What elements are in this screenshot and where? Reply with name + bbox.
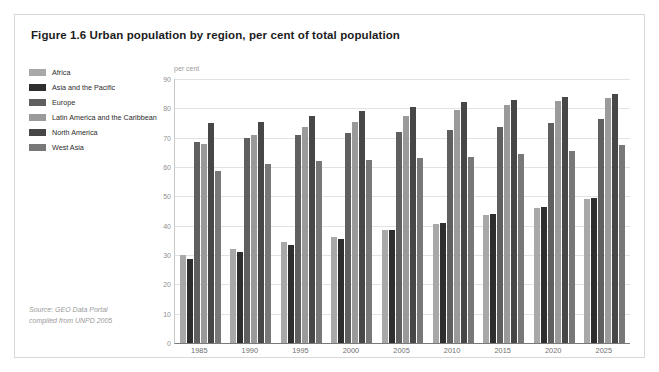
y-axis-tick-label: 30 <box>163 252 171 259</box>
y-axis-title: per cent <box>174 65 199 72</box>
y-axis-tick-label: 20 <box>163 281 171 288</box>
bar[interactable] <box>180 255 186 343</box>
bar[interactable] <box>598 119 604 343</box>
bar[interactable] <box>265 164 271 343</box>
x-axis-tick-label: 2015 <box>477 346 528 355</box>
legend-item[interactable]: West Asia <box>29 140 149 155</box>
legend-swatch-icon <box>29 129 46 136</box>
legend-item-label: West Asia <box>52 144 84 151</box>
bar[interactable] <box>382 230 388 343</box>
bar[interactable] <box>403 116 409 343</box>
y-axis-tick-label: 0 <box>167 340 171 347</box>
bar[interactable] <box>366 160 372 343</box>
bar[interactable] <box>389 230 395 343</box>
bar-group <box>331 79 372 343</box>
bar[interactable] <box>352 122 358 343</box>
legend-item[interactable]: North America <box>29 125 149 140</box>
source-line-2: compiled from UNPD 2005 <box>29 316 112 327</box>
bar[interactable] <box>237 252 243 343</box>
bar[interactable] <box>584 199 590 343</box>
bar[interactable] <box>316 161 322 343</box>
bar-group <box>230 79 271 343</box>
y-axis-tick-label: 50 <box>163 193 171 200</box>
bar[interactable] <box>440 223 446 343</box>
bar[interactable] <box>201 144 207 343</box>
bar-group <box>584 79 625 343</box>
bar[interactable] <box>258 122 264 343</box>
x-axis-tick-label: 1985 <box>174 346 225 355</box>
bar[interactable] <box>511 100 517 343</box>
bar[interactable] <box>295 135 301 343</box>
legend-swatch-icon <box>29 84 46 91</box>
legend-item[interactable]: Latin America and the Caribbean <box>29 110 149 125</box>
bar[interactable] <box>562 97 568 343</box>
legend-item[interactable]: Europe <box>29 95 149 110</box>
chart-plot-wrapper: per cent 0102030405060708090 19851990199… <box>153 65 633 355</box>
bar[interactable] <box>251 135 257 343</box>
bar[interactable] <box>345 133 351 343</box>
bar[interactable] <box>215 171 221 343</box>
bar[interactable] <box>504 105 510 343</box>
bar[interactable] <box>518 154 524 343</box>
bar[interactable] <box>534 208 540 343</box>
bar[interactable] <box>490 214 496 343</box>
y-axis-tick-label: 70 <box>163 134 171 141</box>
legend-swatch-icon <box>29 114 46 121</box>
y-axis-tick-label: 90 <box>163 76 171 83</box>
x-axis-tick-label: 2005 <box>376 346 427 355</box>
bar[interactable] <box>612 94 618 343</box>
bar[interactable] <box>555 101 561 343</box>
bar[interactable] <box>454 110 460 343</box>
y-axis-tick-label: 40 <box>163 222 171 229</box>
y-axis-tick-label: 80 <box>163 105 171 112</box>
legend-item[interactable]: Africa <box>29 65 149 80</box>
chart-plot-area: 0102030405060708090 <box>174 79 630 344</box>
legend-item-label: Europe <box>52 99 75 106</box>
bar[interactable] <box>461 102 467 343</box>
source-line-1: Source: GEO Data Portal <box>29 305 112 316</box>
bar-group <box>483 79 524 343</box>
x-axis-labels: 198519901995200020052010201520202025 <box>174 346 629 355</box>
legend-swatch-icon <box>29 144 46 151</box>
bar[interactable] <box>468 157 474 343</box>
legend-item-label: North America <box>52 129 98 136</box>
bar[interactable] <box>433 224 439 343</box>
bar[interactable] <box>194 142 200 343</box>
page-title: Figure 1.6 Urban population by region, p… <box>31 29 400 41</box>
bar[interactable] <box>331 237 337 343</box>
bar-group <box>180 79 221 343</box>
bar[interactable] <box>396 132 402 343</box>
bar[interactable] <box>605 98 611 343</box>
source-note: Source: GEO Data Portal compiled from UN… <box>29 305 112 326</box>
bar[interactable] <box>447 130 453 343</box>
bar-group <box>382 79 423 343</box>
bar[interactable] <box>410 107 416 343</box>
bar-group <box>534 79 575 343</box>
bar[interactable] <box>244 138 250 343</box>
bar[interactable] <box>309 116 315 343</box>
x-axis-tick-label: 2025 <box>579 346 630 355</box>
bar[interactable] <box>187 259 193 343</box>
bar[interactable] <box>548 123 554 343</box>
bar[interactable] <box>591 198 597 343</box>
bar[interactable] <box>281 242 287 343</box>
bar[interactable] <box>619 145 625 343</box>
bar[interactable] <box>338 239 344 343</box>
bar[interactable] <box>208 123 214 343</box>
bar[interactable] <box>417 158 423 343</box>
bar[interactable] <box>230 249 236 343</box>
bar[interactable] <box>359 111 365 343</box>
y-axis-tick-label: 60 <box>163 164 171 171</box>
x-axis-tick-label: 1990 <box>225 346 276 355</box>
bar[interactable] <box>288 245 294 343</box>
bars-layer <box>175 79 630 343</box>
bar-group <box>281 79 322 343</box>
y-axis-tick-label: 10 <box>163 310 171 317</box>
bar[interactable] <box>302 127 308 343</box>
legend-item-label: Africa <box>52 69 70 76</box>
bar[interactable] <box>483 215 489 343</box>
legend-item[interactable]: Asia and the Pacific <box>29 80 149 95</box>
bar[interactable] <box>569 151 575 343</box>
bar[interactable] <box>497 127 503 343</box>
bar[interactable] <box>541 207 547 343</box>
